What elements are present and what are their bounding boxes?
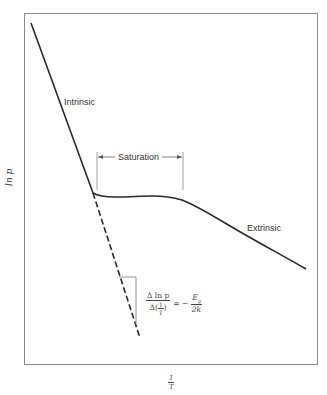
arrowhead-right-icon xyxy=(177,155,182,159)
intrinsic-extrapolation-dashed xyxy=(93,193,140,338)
eq-num-text: Δ ln p xyxy=(147,291,169,300)
y-axis-label: ln p xyxy=(4,169,14,186)
arrowhead-left-icon xyxy=(98,155,103,159)
eq-den-den: T xyxy=(159,309,163,316)
eq-numerator: Δ ln p xyxy=(146,291,170,301)
eq-rhs-numerator: Eg xyxy=(191,293,202,305)
x-label-denominator: T xyxy=(169,383,174,391)
diagram-canvas xyxy=(0,0,327,395)
label-saturation: Saturation xyxy=(118,152,159,162)
eq-denominator: Δ(1T) xyxy=(150,301,167,316)
eq-rhs-denominator: 2k xyxy=(192,305,201,314)
x-label-numerator: 1 xyxy=(168,374,174,383)
x-axis-label: 1 T xyxy=(168,374,174,391)
label-extrinsic: Extrinsic xyxy=(247,223,281,233)
eq-rhs-sub: g xyxy=(198,298,201,304)
eq-delta: Δ xyxy=(150,303,155,312)
eq-equals: = − xyxy=(173,299,188,308)
eq-den-num: 1 xyxy=(158,301,164,309)
slope-equation: Δ ln p Δ(1T) = − Eg 2k xyxy=(146,291,202,316)
label-intrinsic: Intrinsic xyxy=(64,97,95,107)
